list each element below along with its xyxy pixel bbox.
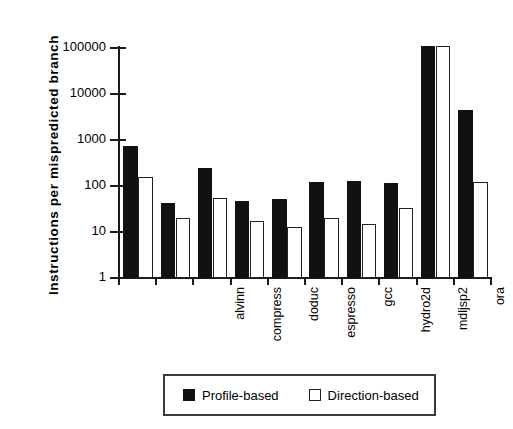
legend-label-direction-based: Direction-based xyxy=(328,388,419,403)
x-axis-tick-label: espresso xyxy=(344,287,358,377)
legend-label-profile-based: Profile-based xyxy=(202,388,279,403)
empty-square-icon xyxy=(309,389,321,401)
x-axis-tick-label: hydro2d xyxy=(419,287,433,377)
x-axis-tick-label: mdljsp2 xyxy=(456,287,470,377)
x-axis-tick xyxy=(341,277,343,285)
bar-ora-profile-based xyxy=(384,183,399,278)
chart-figure: Instructions per mispredicted branch 110… xyxy=(0,0,513,429)
bar-ora-direction-based xyxy=(399,208,414,278)
bar-tomcatv-profile-based xyxy=(458,110,473,278)
bar-doduc-profile-based xyxy=(198,168,213,278)
bar-tomcatv-direction-based xyxy=(473,182,488,278)
bar-compress-direction-based xyxy=(176,218,191,278)
bar-espresso-direction-based xyxy=(250,221,265,278)
x-axis-tick xyxy=(490,277,492,285)
x-axis-tick xyxy=(304,277,306,285)
x-axis-tick xyxy=(192,277,194,285)
bar-swm256-profile-based xyxy=(421,46,436,278)
x-axis-tick-label: doduc xyxy=(307,287,321,377)
x-axis-tick xyxy=(416,277,418,285)
y-axis-tick-label: 1 xyxy=(99,271,106,283)
bar-alvinn-profile-based xyxy=(123,146,138,278)
legend-item-direction-based: Direction-based xyxy=(309,388,419,403)
bar-compress-profile-based xyxy=(161,203,176,278)
x-axis-tick-label: alvinn xyxy=(233,287,247,377)
filled-square-icon xyxy=(183,389,195,401)
x-axis-tick xyxy=(378,277,380,285)
legend-item-profile-based: Profile-based xyxy=(183,388,279,403)
y-axis-tick-label: 10 xyxy=(92,225,106,237)
bar-mdljsp2-direction-based xyxy=(362,224,377,278)
bar-doduc-direction-based xyxy=(213,198,228,278)
bar-espresso-profile-based xyxy=(235,201,250,278)
bar-gcc-direction-based xyxy=(287,227,302,278)
bar-gcc-profile-based xyxy=(272,199,287,278)
plot-area xyxy=(118,48,490,278)
bar-alvinn-direction-based xyxy=(138,177,153,278)
x-axis-tick-label: ora xyxy=(493,287,507,377)
y-axis-tick-label: 100 xyxy=(84,179,106,191)
bar-hydro2d-profile-based xyxy=(309,182,324,278)
bar-mdljsp2-profile-based xyxy=(347,181,362,278)
x-axis-tick xyxy=(267,277,269,285)
chart-legend: Profile-based Direction-based xyxy=(163,374,436,416)
y-axis-tick-label: 100000 xyxy=(63,41,106,53)
bar-hydro2d-direction-based xyxy=(324,218,339,278)
y-axis-tick-labels: 110100100010000100000 xyxy=(0,0,106,429)
y-axis-tick-label: 1000 xyxy=(77,133,106,145)
x-axis-tick-label: compress xyxy=(270,287,284,377)
x-axis-tick xyxy=(453,277,455,285)
x-axis-tick xyxy=(118,277,120,285)
x-axis-tick xyxy=(155,277,157,285)
bar-swm256-direction-based xyxy=(436,46,451,278)
x-axis-tick xyxy=(230,277,232,285)
y-axis-tick-label: 10000 xyxy=(70,87,106,99)
x-axis-tick-label: gcc xyxy=(381,287,395,377)
